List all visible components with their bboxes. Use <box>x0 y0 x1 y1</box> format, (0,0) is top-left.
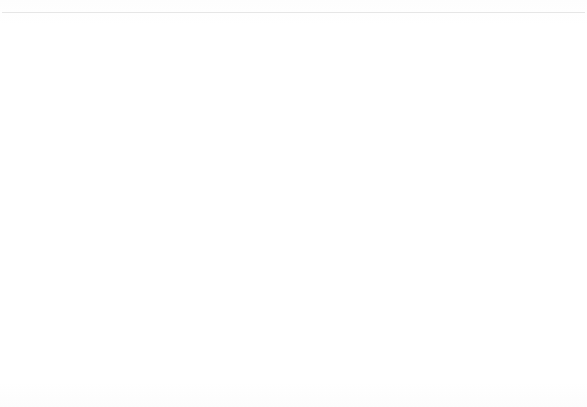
y-tickmark-10 <box>62 335 66 336</box>
legend-swatch-2001-icon <box>532 203 540 211</box>
y-axis-label-50: 50 <box>51 192 60 201</box>
bar-chart: 0102030405060708090100 Percentage Christ… <box>0 0 587 407</box>
legend-item-2001[interactable]: 2001 <box>532 201 569 212</box>
y-tickmark-30 <box>62 265 66 266</box>
y-tickmark-80 <box>62 92 66 93</box>
legend-item-1990[interactable]: 1990 <box>532 190 569 201</box>
legend-label-1990: 1990 <box>543 191 560 200</box>
y-tickmark-20 <box>62 300 66 301</box>
y-tickmark-40 <box>62 231 66 232</box>
y-axis-label-100: 100 <box>47 19 60 28</box>
category-label-christianity: Christianity <box>122 383 160 392</box>
y-axis-label-90: 90 <box>51 53 60 62</box>
y-axis-label-30: 30 <box>51 261 60 270</box>
y-axis-label-10: 10 <box>51 331 60 340</box>
y-axis-label-0: 0 <box>56 366 60 375</box>
y-tickmark-90 <box>62 57 66 58</box>
y-tickmark-50 <box>62 196 66 197</box>
plot-area: 0102030405060708090100 <box>65 22 524 371</box>
y-axis-label-60: 60 <box>51 157 60 166</box>
y-axis-label-40: 40 <box>51 227 60 236</box>
bar-1990-nonreligious-secular <box>248 344 295 370</box>
category-tick-1 <box>218 370 219 375</box>
legend-swatch-1990-icon <box>532 192 540 200</box>
bar-2001-nonreligious-secular <box>295 323 342 370</box>
scan-artifact-band <box>66 76 523 78</box>
y-axis-title: Percentage <box>22 136 31 178</box>
category-label-nonreligious-secular: Nonreligious/Secular <box>258 383 329 392</box>
y-tickmark-60 <box>62 161 66 162</box>
y-axis-label-20: 20 <box>51 296 60 305</box>
bar-1990-christianity <box>95 85 142 370</box>
scan-streak-artifact <box>2 12 585 13</box>
legend: 1990 2001 <box>527 186 573 216</box>
bar-1990-other <box>400 329 447 370</box>
y-axis-label-80: 80 <box>51 88 60 97</box>
y-tickmark-0 <box>62 370 66 371</box>
gridline-90 <box>66 58 523 59</box>
bar-2001-other <box>447 330 494 370</box>
legend-label-2001: 2001 <box>543 202 560 211</box>
bar-2001-christianity <box>142 106 189 370</box>
category-label-other: Other <box>436 383 455 392</box>
y-axis-label-70: 70 <box>51 123 60 132</box>
y-tickmark-70 <box>62 127 66 128</box>
category-tick-2 <box>371 370 372 375</box>
y-tickmark-100 <box>62 23 66 24</box>
